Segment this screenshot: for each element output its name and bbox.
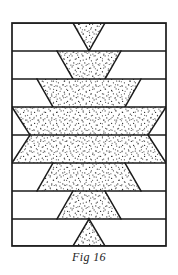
band-3-fill-overlay bbox=[37, 79, 141, 107]
band-6-fill-overlay bbox=[37, 163, 141, 191]
band-4-fill-overlay bbox=[12, 107, 166, 135]
figure-caption: Fig 16 bbox=[0, 250, 178, 265]
figure-diagram bbox=[0, 0, 178, 275]
band-5-fill-overlay bbox=[12, 135, 166, 163]
figure-container: Fig 16 bbox=[0, 0, 178, 275]
